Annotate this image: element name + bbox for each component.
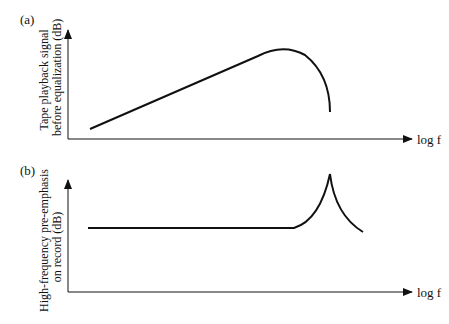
panel-b-tag: (b) bbox=[20, 163, 35, 179]
diagram-canvas bbox=[0, 0, 449, 324]
panel-b-axes bbox=[68, 180, 412, 292]
panel-b-ylabel: High-frequency pre-emphasis on record (d… bbox=[38, 182, 64, 312]
panel-a-curve bbox=[90, 49, 330, 129]
panel-a-tag: (a) bbox=[20, 12, 34, 28]
panel-a-ylabel: Tape playback signal before equalization… bbox=[38, 24, 64, 136]
panel-b-curve bbox=[88, 174, 363, 232]
panel-b-xlabel: log f bbox=[417, 285, 441, 301]
panel-a-axes bbox=[68, 30, 412, 139]
figure: (a) log f Tape playback signal before eq… bbox=[0, 0, 449, 324]
panel-a-ylabel-line2: before equalization (dB) bbox=[51, 24, 64, 136]
panel-b-ylabel-line2: on record (dB) bbox=[51, 182, 64, 312]
panel-a-xlabel: log f bbox=[417, 132, 441, 148]
